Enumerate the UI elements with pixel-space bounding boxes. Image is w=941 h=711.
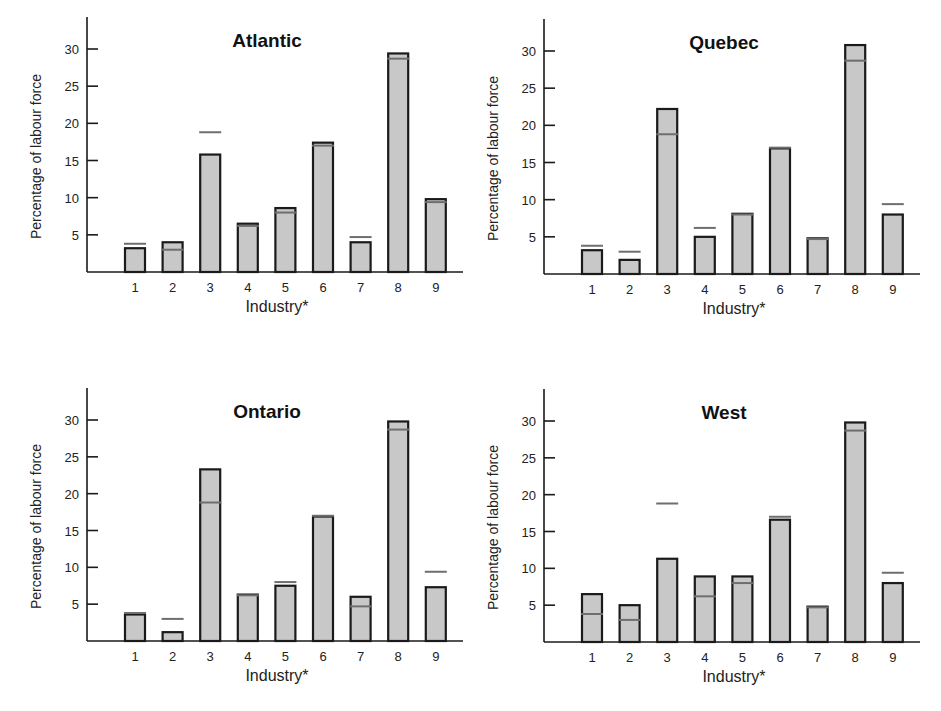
- x-tick-label: 6: [319, 649, 326, 664]
- y-tick-label: 30: [65, 413, 79, 428]
- x-axis-label: Industry*: [245, 298, 308, 315]
- bar: [388, 53, 408, 272]
- x-tick-label: 7: [814, 650, 821, 665]
- y-tick-label: 5: [529, 598, 536, 613]
- bar: [845, 45, 865, 274]
- bar: [695, 237, 715, 274]
- y-tick-label: 10: [65, 191, 79, 206]
- chart-ontario: OntarioPercentage of labour force5101520…: [0, 370, 470, 711]
- y-tick-label: 25: [65, 450, 79, 465]
- x-axis-label: Industry*: [702, 668, 765, 685]
- x-axis-label: Industry*: [702, 300, 765, 317]
- bar: [620, 260, 640, 274]
- bar: [313, 143, 333, 272]
- x-tick-label: 5: [739, 282, 746, 297]
- bar: [695, 576, 715, 642]
- bar: [351, 597, 371, 641]
- chart-title: Quebec: [689, 32, 759, 53]
- bar: [238, 595, 258, 641]
- y-tick-label: 30: [522, 414, 536, 429]
- x-tick-label: 1: [588, 282, 595, 297]
- x-tick-label: 7: [357, 649, 364, 664]
- panel-west: WestPercentage of labour force5101520253…: [470, 370, 940, 711]
- bar: [238, 224, 258, 272]
- y-tick-label: 30: [522, 44, 536, 59]
- y-axis-label: Percentage of labour force: [485, 445, 501, 610]
- chart-quebec: QuebecPercentage of labour force51015202…: [470, 0, 941, 355]
- bar: [125, 614, 145, 641]
- x-tick-label: 2: [626, 282, 633, 297]
- bar: [845, 422, 865, 642]
- y-tick-label: 20: [522, 118, 536, 133]
- chart-title: Atlantic: [232, 30, 302, 51]
- x-tick-label: 9: [432, 649, 439, 664]
- bar: [275, 586, 295, 641]
- x-tick-label: 8: [395, 649, 402, 664]
- x-tick-label: 6: [776, 282, 783, 297]
- x-tick-label: 5: [282, 280, 289, 295]
- y-axis-label: Percentage of labour force: [28, 74, 44, 239]
- x-tick-label: 4: [244, 649, 251, 664]
- panel-atlantic: AtlanticPercentage of labour force510152…: [0, 0, 470, 355]
- x-tick-label: 2: [169, 649, 176, 664]
- x-tick-label: 6: [319, 280, 326, 295]
- y-tick-label: 10: [522, 193, 536, 208]
- x-tick-label: 4: [701, 650, 708, 665]
- bar: [732, 576, 752, 642]
- chart-title: West: [701, 402, 747, 423]
- y-tick-label: 5: [72, 228, 79, 243]
- bar: [163, 632, 183, 641]
- x-tick-label: 9: [889, 282, 896, 297]
- bar: [582, 250, 602, 274]
- bar: [388, 421, 408, 641]
- bar: [732, 214, 752, 274]
- bar: [808, 238, 828, 274]
- bar: [313, 517, 333, 641]
- x-tick-label: 8: [852, 650, 859, 665]
- y-tick-label: 15: [65, 154, 79, 169]
- x-tick-label: 1: [588, 650, 595, 665]
- bar: [275, 208, 295, 272]
- y-tick-label: 5: [529, 230, 536, 245]
- panel-quebec: QuebecPercentage of labour force51015202…: [470, 0, 940, 355]
- bar: [426, 199, 446, 272]
- bar: [770, 520, 790, 642]
- x-tick-label: 7: [357, 280, 364, 295]
- bar: [351, 242, 371, 272]
- y-tick-label: 20: [522, 488, 536, 503]
- y-axis-label: Percentage of labour force: [485, 76, 501, 241]
- bar: [657, 559, 677, 642]
- y-tick-label: 25: [65, 79, 79, 94]
- bar: [620, 605, 640, 642]
- chart-west: WestPercentage of labour force5101520253…: [470, 370, 941, 711]
- bar: [426, 587, 446, 641]
- x-tick-label: 3: [664, 282, 671, 297]
- x-tick-label: 3: [207, 649, 214, 664]
- x-tick-label: 1: [131, 280, 138, 295]
- x-tick-label: 4: [701, 282, 708, 297]
- chart-atlantic: AtlanticPercentage of labour force510152…: [0, 0, 470, 355]
- x-tick-label: 4: [244, 280, 251, 295]
- y-tick-label: 30: [65, 42, 79, 57]
- x-tick-label: 7: [814, 282, 821, 297]
- x-tick-label: 2: [169, 280, 176, 295]
- bar: [125, 248, 145, 272]
- x-tick-label: 3: [207, 280, 214, 295]
- bar: [200, 155, 220, 272]
- y-tick-label: 15: [522, 525, 536, 540]
- y-axis-label: Percentage of labour force: [28, 444, 44, 609]
- bar: [883, 215, 903, 274]
- bar: [770, 148, 790, 274]
- x-tick-label: 1: [131, 649, 138, 664]
- x-tick-label: 9: [889, 650, 896, 665]
- y-tick-label: 25: [522, 81, 536, 96]
- x-tick-label: 5: [739, 650, 746, 665]
- y-tick-label: 15: [522, 156, 536, 171]
- x-axis-label: Industry*: [245, 667, 308, 684]
- bar: [200, 469, 220, 641]
- y-tick-label: 5: [72, 597, 79, 612]
- x-tick-label: 8: [852, 282, 859, 297]
- bar: [808, 607, 828, 642]
- x-tick-label: 5: [282, 649, 289, 664]
- bar: [163, 242, 183, 272]
